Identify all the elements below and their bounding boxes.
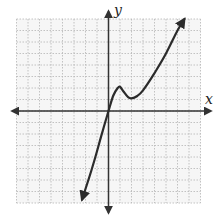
- coordinate-graph: x y: [0, 0, 219, 224]
- x-axis-label: x: [205, 91, 213, 107]
- y-axis-label: y: [113, 2, 123, 18]
